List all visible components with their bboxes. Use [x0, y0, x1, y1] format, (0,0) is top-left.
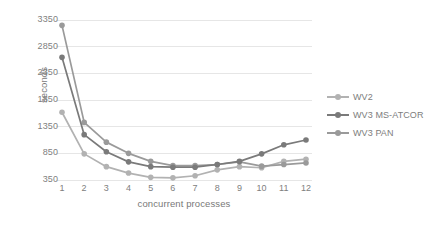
- data-point-marker: [214, 167, 220, 173]
- legend-item[interactable]: WV2: [327, 88, 431, 106]
- x-axis-tick-label: 1: [51, 183, 73, 193]
- chart-legend: WV2WV3 MS-ATCORWV3 PAN: [327, 88, 431, 142]
- data-point-marker: [59, 23, 65, 29]
- legend-item[interactable]: WV3 PAN: [327, 124, 431, 142]
- data-point-marker: [104, 164, 110, 170]
- x-axis-title: concurrent processes: [62, 198, 306, 209]
- data-point-marker: [148, 159, 154, 165]
- data-point-marker: [259, 163, 265, 169]
- data-point-marker: [81, 120, 87, 126]
- y-axis-tick-label: 850: [28, 148, 58, 157]
- data-point-marker: [281, 142, 287, 148]
- x-axis-tick-label: 11: [273, 183, 295, 193]
- data-point-marker: [237, 159, 243, 165]
- legend-marker-icon: [327, 92, 349, 102]
- legend-item-label: WV3 MS-ATCOR: [353, 110, 424, 120]
- legend-marker-icon: [327, 110, 349, 120]
- x-axis-tick-label: 6: [162, 183, 184, 193]
- data-point-marker: [126, 151, 132, 157]
- legend-item-label: WV2: [353, 92, 373, 102]
- x-axis-tick-label: 12: [295, 183, 317, 193]
- data-point-marker: [281, 162, 287, 168]
- data-point-marker: [104, 139, 110, 145]
- data-point-marker: [170, 164, 176, 170]
- data-point-marker: [170, 175, 176, 181]
- legend-marker-icon: [327, 128, 349, 138]
- data-point-marker: [148, 164, 154, 170]
- data-point-marker: [237, 164, 243, 170]
- data-point-marker: [104, 149, 110, 155]
- x-axis-tick-label: 4: [118, 183, 140, 193]
- y-axis-tick-label: 3350: [28, 15, 58, 24]
- line-chart: 35085013501850235028503350 1234567891011…: [0, 0, 431, 231]
- data-point-marker: [59, 109, 65, 115]
- x-axis-tick-label: 7: [184, 183, 206, 193]
- data-point-marker: [192, 164, 198, 170]
- x-axis-tick-label: 2: [73, 183, 95, 193]
- data-point-marker: [303, 160, 309, 166]
- data-point-marker: [81, 151, 87, 157]
- data-point-marker: [303, 137, 309, 143]
- x-axis-tick-label: 8: [206, 183, 228, 193]
- legend-item-label: WV3 PAN: [353, 128, 394, 138]
- y-axis-title: seconds: [38, 50, 52, 120]
- data-point-marker: [126, 159, 132, 165]
- legend-item[interactable]: WV3 MS-ATCOR: [327, 106, 431, 124]
- x-axis-tick-label: 3: [95, 183, 117, 193]
- data-point-marker: [126, 170, 132, 176]
- y-axis-tick-label: 1350: [28, 122, 58, 131]
- data-point-marker: [259, 151, 265, 157]
- x-axis-tick-label: 9: [228, 183, 250, 193]
- x-axis-tick-label: 5: [140, 183, 162, 193]
- data-point-marker: [59, 55, 65, 61]
- x-axis-tick-label: 10: [251, 183, 273, 193]
- data-point-marker: [81, 132, 87, 138]
- data-point-marker: [214, 162, 220, 168]
- data-point-marker: [192, 173, 198, 179]
- x-axis-tick-labels: 123456789101112: [0, 183, 431, 197]
- data-point-marker: [148, 175, 154, 181]
